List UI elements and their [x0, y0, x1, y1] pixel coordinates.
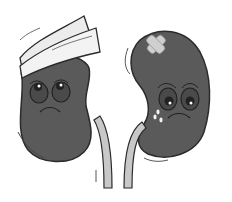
right-ureter	[124, 122, 146, 188]
kidneys-illustration: Two sad cartoon kidneys	[0, 0, 232, 202]
left-kidney	[18, 16, 102, 182]
kidneys-svg	[0, 0, 232, 202]
left-ureter	[94, 116, 112, 188]
right-kidney	[125, 31, 209, 161]
